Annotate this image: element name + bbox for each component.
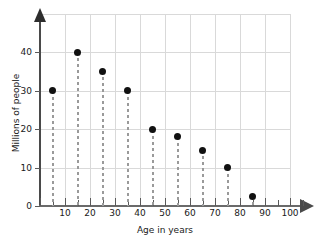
gridline-vertical — [265, 14, 266, 206]
y-axis-line — [39, 20, 41, 207]
data-stem — [177, 137, 179, 206]
x-axis-tick — [265, 198, 266, 206]
y-axis-tick — [35, 206, 40, 207]
data-stem — [52, 91, 54, 207]
data-point-marker — [224, 164, 231, 171]
data-point-marker — [49, 87, 56, 94]
gridline-vertical — [140, 14, 141, 206]
x-axis-title: Age in years — [40, 225, 290, 235]
x-axis-tick-minor — [278, 200, 279, 206]
gridline-vertical — [215, 14, 216, 206]
data-stem — [127, 91, 129, 207]
x-axis-tick-label: 10 — [52, 208, 78, 219]
x-axis-tick — [240, 198, 241, 206]
gridline-vertical — [290, 14, 291, 206]
gridline-vertical — [115, 14, 116, 206]
x-axis-tick — [190, 198, 191, 206]
x-axis-tick-label: 60 — [177, 208, 203, 219]
y-axis-tick-label: 0 — [10, 201, 32, 211]
data-stem — [152, 130, 154, 206]
x-axis-tick — [165, 198, 166, 206]
data-point-marker — [74, 49, 81, 56]
x-axis-tick-minor — [303, 200, 304, 206]
y-axis-tick — [35, 168, 40, 169]
chart-screenshot: Age in years Millions of people 10203040… — [0, 0, 326, 250]
x-axis-tick-label: 80 — [227, 208, 253, 219]
x-axis-tick-label: 30 — [102, 208, 128, 219]
x-axis-tick — [140, 198, 141, 206]
y-axis-tick-label: 40 — [10, 47, 32, 57]
data-point-marker — [99, 68, 106, 75]
y-axis-tick — [35, 52, 40, 53]
gridline-vertical — [165, 14, 166, 206]
x-axis-tick — [90, 198, 91, 206]
y-axis-tick-label: 30 — [10, 86, 32, 96]
y-axis-tick — [35, 129, 40, 130]
x-axis-tick — [40, 198, 41, 206]
x-axis-tick-label: 70 — [202, 208, 228, 219]
data-point-marker — [249, 193, 256, 200]
x-axis-tick — [65, 198, 66, 206]
y-axis-tick-label: 10 — [10, 163, 32, 173]
data-stem — [202, 150, 204, 206]
gridline-vertical — [240, 14, 241, 206]
y-axis-tick-label: 20 — [10, 124, 32, 134]
data-point-marker — [124, 87, 131, 94]
x-axis-tick-label: 90 — [252, 208, 278, 219]
x-axis-tick — [215, 198, 216, 206]
data-stem — [77, 52, 79, 206]
y-axis-title: Millions of people — [11, 53, 21, 173]
gridline-vertical — [90, 14, 91, 206]
x-axis-tick-label: 20 — [77, 208, 103, 219]
data-point-marker — [199, 147, 206, 154]
x-axis-tick — [115, 198, 116, 206]
data-stem — [227, 168, 229, 207]
x-axis-tick — [290, 198, 291, 206]
y-axis-arrow-icon — [34, 8, 46, 22]
x-axis-tick-label: 50 — [152, 208, 178, 219]
x-axis-tick-label: 40 — [127, 208, 153, 219]
gridline-vertical — [190, 14, 191, 206]
x-axis-tick-label: 100 — [277, 208, 303, 219]
y-axis-tick — [35, 91, 40, 92]
data-stem — [102, 71, 104, 206]
gridline-vertical — [65, 14, 66, 206]
